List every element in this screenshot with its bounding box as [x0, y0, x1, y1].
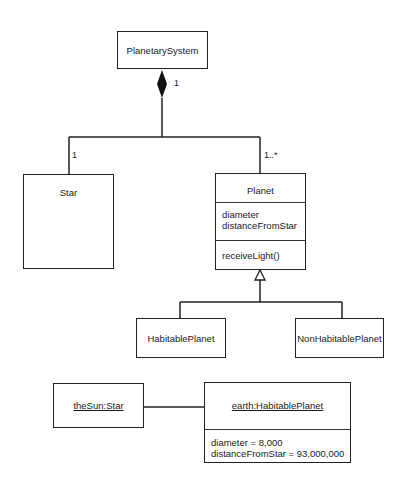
class-name: HabitablePlanet: [137, 333, 225, 344]
class-planetary-system: PlanetarySystem: [117, 31, 208, 69]
class-name: Star: [24, 187, 113, 198]
attribute: distanceFromStar: [222, 220, 305, 231]
attribute: diameter: [222, 209, 305, 220]
class-name: NonHabitablePlanet: [296, 333, 383, 344]
class-name: PlanetarySystem: [118, 45, 207, 56]
class-star: Star: [23, 174, 114, 269]
class-habitable-planet: HabitablePlanet: [136, 318, 226, 358]
attributes-compartment: diameter = 8,000 distanceFromStar = 93,0…: [205, 429, 350, 462]
operations-compartment: receiveLight(): [216, 240, 305, 269]
attribute-value: distanceFromStar = 93,000,000: [211, 448, 350, 459]
class-planet: Planet diameter distanceFromStar receive…: [215, 173, 306, 270]
object-name: theSun:Star: [54, 400, 143, 411]
object-name: earth:HabitablePlanet: [205, 400, 350, 411]
class-non-habitable-planet: NonHabitablePlanet: [295, 318, 384, 358]
class-name: Planet: [216, 185, 305, 196]
generalization-triangle-icon: [255, 270, 265, 280]
operation: receiveLight(): [222, 250, 305, 261]
multiplicity-whole: 1: [174, 78, 179, 88]
attribute-value: diameter = 8,000: [211, 437, 350, 448]
attributes-compartment: diameter distanceFromStar: [216, 202, 305, 240]
multiplicity-planet: 1..*: [264, 150, 278, 160]
composition-diamond-icon: [157, 70, 167, 98]
multiplicity-star: 1: [72, 150, 77, 160]
object-the-sun: theSun:Star: [53, 383, 144, 428]
object-earth: earth:HabitablePlanet diameter = 8,000 d…: [204, 382, 351, 463]
